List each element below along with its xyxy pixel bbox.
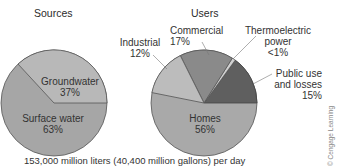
public-use-name: Public use bbox=[262, 68, 322, 79]
users-title: Users bbox=[191, 7, 218, 19]
thermoelectric-name-2: power bbox=[240, 36, 316, 47]
homes-pct: 56% bbox=[180, 124, 230, 135]
commercial-name: Commercial bbox=[170, 25, 230, 36]
thermoelectric-pct: <1% bbox=[240, 47, 316, 58]
sources-pie bbox=[1, 50, 107, 156]
commercial-pct: 17% bbox=[170, 36, 230, 47]
thermoelectric-label: Thermoelectric power <1% bbox=[240, 25, 316, 58]
users-pie bbox=[151, 50, 257, 156]
industrial-name: Industrial bbox=[117, 37, 163, 48]
chart-caption: 153,000 million liters (40,400 million g… bbox=[24, 155, 245, 166]
groundwater-name: Groundwater bbox=[35, 76, 105, 87]
groundwater-pct: 37% bbox=[35, 87, 105, 98]
groundwater-label: Groundwater 37% bbox=[35, 76, 105, 98]
sources-title: Sources bbox=[34, 7, 73, 19]
homes-name: Homes bbox=[180, 113, 230, 124]
public-use-label: Public use and losses 15% bbox=[262, 68, 322, 101]
surface-water-label: Surface water 63% bbox=[15, 113, 91, 135]
public-use-name-2: and losses bbox=[262, 79, 322, 90]
commercial-label: Commercial 17% bbox=[170, 25, 230, 47]
thermoelectric-name: Thermoelectric bbox=[240, 25, 316, 36]
surface-water-name: Surface water bbox=[15, 113, 91, 124]
homes-label: Homes 56% bbox=[180, 113, 230, 135]
public-use-pct: 15% bbox=[262, 90, 322, 101]
industrial-pct: 12% bbox=[117, 48, 163, 59]
surface-water-pct: 63% bbox=[15, 124, 91, 135]
industrial-label: Industrial 12% bbox=[117, 37, 163, 59]
copyright-credit: © Cengage Learning bbox=[327, 106, 334, 166]
